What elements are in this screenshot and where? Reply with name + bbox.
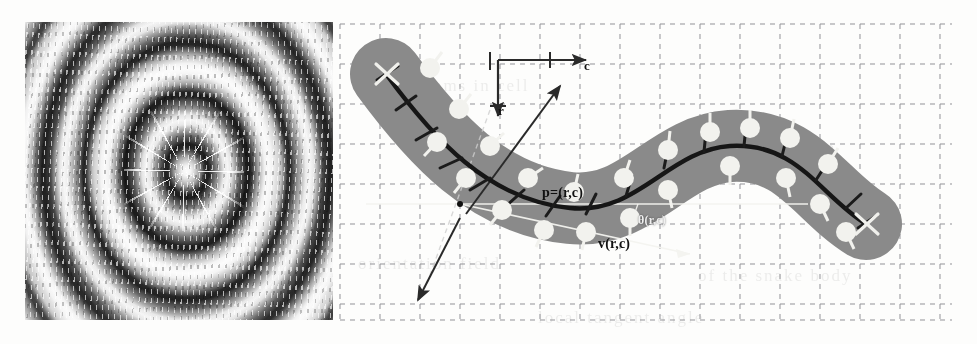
r-axis-label: r: [498, 103, 504, 119]
sample-disc: [420, 52, 442, 78]
v-direction-arrowhead: [676, 249, 690, 258]
point-p-marker: [457, 201, 463, 207]
snake-vector-diagram: [338, 18, 956, 323]
radial-starburst-icon: [124, 111, 244, 231]
figure-root: cilia rhythms in cell estimated sequence…: [0, 0, 977, 344]
rc-axis-indicator: [490, 52, 586, 116]
sample-disc: [534, 220, 554, 247]
angle-theta-label: θ(r,c): [638, 213, 666, 228]
interference-pattern-panel: [25, 22, 333, 320]
sample-disc: [576, 222, 596, 250]
sample-disc: [449, 94, 471, 119]
vector-v-label: v(r,c): [598, 236, 630, 252]
snake-band: [386, 74, 866, 224]
point-p-label: p=(r,c): [542, 185, 583, 201]
snake-diagram-panel: cilia rhythms in cell estimated sequence…: [338, 18, 956, 323]
c-axis-label: c: [584, 58, 590, 74]
